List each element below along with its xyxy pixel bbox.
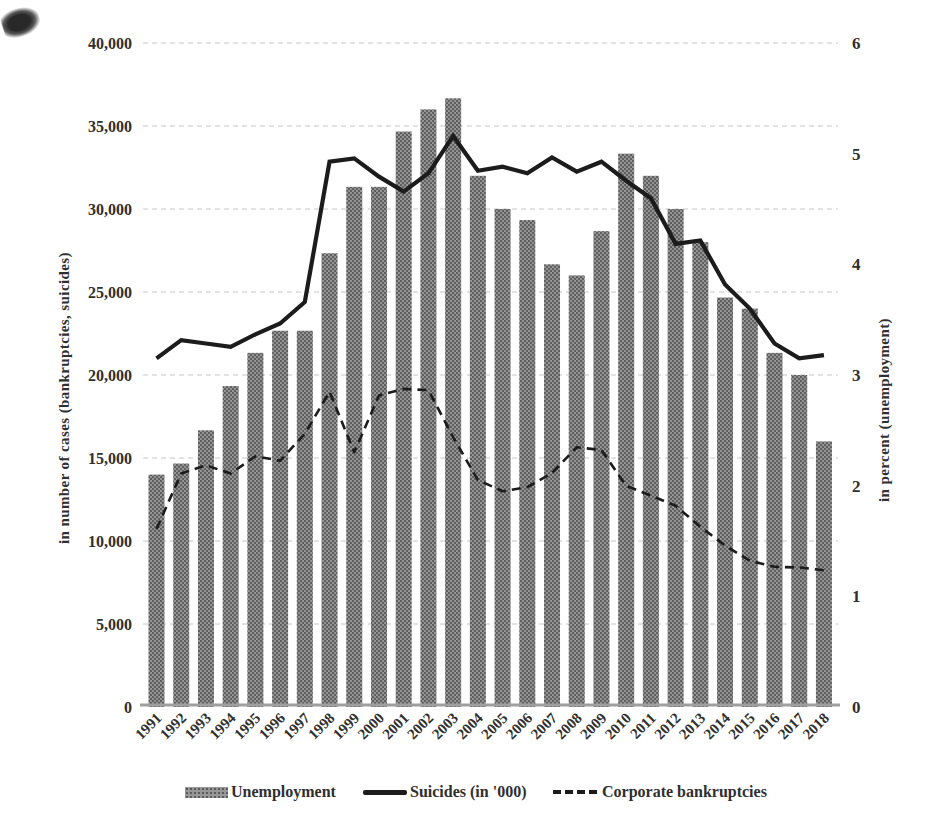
right-axis-tick-label: 5 xyxy=(852,145,861,164)
x-axis-year-label-2002: 2002 xyxy=(404,710,437,743)
chart-canvas: 05,00010,00015,00020,00025,00030,00035,0… xyxy=(0,0,946,839)
left-axis-tick-label: 25,000 xyxy=(88,284,132,301)
left-axis-tick-label: 40,000 xyxy=(88,35,132,52)
x-axis-year-label-2003: 2003 xyxy=(429,710,462,743)
combo-chart: 05,00010,00015,00020,00025,00030,00035,0… xyxy=(0,0,946,839)
bar-unemployment-2009 xyxy=(593,231,609,707)
left-axis-title: in number of cases (bankruptcies, suicid… xyxy=(56,252,73,544)
x-axis-year-label-1992: 1992 xyxy=(157,710,190,743)
legend-label-unemployment: Unemployment xyxy=(231,783,336,801)
legend-label-suicides: Suicides (in '000) xyxy=(410,783,526,801)
x-axis-year-label-2007: 2007 xyxy=(528,709,561,742)
x-axis-year-label-2011: 2011 xyxy=(627,710,659,742)
bar-unemployment-2017 xyxy=(791,375,807,707)
left-axis-tick-label: 5,000 xyxy=(96,616,132,633)
legend-item-unemployment: Unemployment xyxy=(185,779,336,805)
x-axis-year-label-1991: 1991 xyxy=(132,710,165,743)
x-axis-year-label-2016: 2016 xyxy=(750,709,783,742)
left-axis-tick-label: 20,000 xyxy=(88,367,132,384)
x-axis-year-label-1994: 1994 xyxy=(206,709,239,742)
left-axis-tick-label: 15,000 xyxy=(88,450,132,467)
x-axis-year-label-2018: 2018 xyxy=(800,710,833,743)
bar-unemployment-2011 xyxy=(643,176,659,707)
bar-unemployment-2001 xyxy=(396,132,412,707)
bar-unemployment-1993 xyxy=(198,430,214,707)
bar-unemployment-2013 xyxy=(692,242,708,707)
legend-label-bankruptcies: Corporate bankruptcies xyxy=(602,783,767,801)
bar-unemployment-1998 xyxy=(322,253,338,707)
bar-unemployment-2005 xyxy=(495,209,511,707)
left-axis-tick-label: 35,000 xyxy=(88,118,132,135)
x-axis-year-label-1998: 1998 xyxy=(305,710,338,743)
x-axis-year-label-2014: 2014 xyxy=(701,709,734,742)
bar-unemployment-2018 xyxy=(816,441,832,707)
bar-unemployment-1997 xyxy=(297,331,313,707)
bar-unemployment-1996 xyxy=(272,331,288,707)
x-axis-year-label-2013: 2013 xyxy=(676,710,709,743)
x-axis-year-label-2005: 2005 xyxy=(478,710,511,743)
unemployment-bar-swatch-icon xyxy=(185,787,228,798)
right-axis-tick-label: 6 xyxy=(852,34,861,53)
right-axis-tick-label: 0 xyxy=(852,698,861,717)
bar-unemployment-1992 xyxy=(173,464,189,707)
right-axis-tick-label: 4 xyxy=(852,255,861,274)
x-axis-year-label-2009: 2009 xyxy=(577,710,610,743)
bar-unemployment-2014 xyxy=(717,298,733,707)
right-axis-tick-label: 2 xyxy=(852,477,861,496)
left-axis-tick-label: 10,000 xyxy=(88,533,132,550)
x-axis-year-label-2017: 2017 xyxy=(775,709,808,742)
x-axis-year-label-1997: 1997 xyxy=(280,709,313,742)
x-axis-year-label-2000: 2000 xyxy=(355,710,388,743)
x-axis-year-label-1995: 1995 xyxy=(231,710,264,743)
legend: Unemployment Suicides (in '000) Corporat… xyxy=(0,779,946,805)
bar-unemployment-2003 xyxy=(445,98,461,707)
bar-unemployment-2010 xyxy=(618,154,634,707)
suicides-line-swatch-icon xyxy=(363,790,407,795)
x-axis-year-label-2008: 2008 xyxy=(552,710,585,743)
right-axis-tick-label: 1 xyxy=(852,587,861,606)
bar-unemployment-2002 xyxy=(420,109,436,707)
bar-unemployment-2012 xyxy=(668,209,684,707)
left-axis-tick-label: 0 xyxy=(124,699,132,716)
bar-unemployment-2008 xyxy=(569,275,585,707)
bar-unemployment-2015 xyxy=(742,309,758,707)
unemployment-bars xyxy=(149,98,832,707)
bar-unemployment-2006 xyxy=(519,220,535,707)
x-axis-year-label-2010: 2010 xyxy=(602,710,635,743)
x-axis-year-label-2015: 2015 xyxy=(725,710,758,743)
bar-unemployment-1991 xyxy=(149,475,165,707)
gridlines xyxy=(143,43,838,624)
bar-unemployment-1994 xyxy=(223,386,239,707)
bar-unemployment-2000 xyxy=(371,187,387,707)
bar-unemployment-2007 xyxy=(544,264,560,707)
legend-item-bankruptcies: Corporate bankruptcies xyxy=(553,779,767,805)
right-axis-tick-label: 3 xyxy=(852,366,861,385)
bar-unemployment-1995 xyxy=(247,353,263,707)
bar-unemployment-2016 xyxy=(767,353,783,707)
x-axis-year-label-2012: 2012 xyxy=(651,710,684,743)
left-axis-tick-label: 30,000 xyxy=(88,201,132,218)
x-axis-year-label-1993: 1993 xyxy=(182,710,215,743)
bar-unemployment-2004 xyxy=(470,176,486,707)
x-axis-year-label-2001: 2001 xyxy=(379,710,412,743)
right-axis-title: in percent (unemployment) xyxy=(876,318,893,502)
x-axis-year-label-2004: 2004 xyxy=(453,709,486,742)
x-axis-year-label-2006: 2006 xyxy=(503,709,536,742)
bankruptcies-dash-swatch-icon xyxy=(553,790,599,794)
x-axis-year-label-1999: 1999 xyxy=(330,710,363,743)
legend-item-suicides: Suicides (in '000) xyxy=(363,779,526,805)
x-axis-year-label-1996: 1996 xyxy=(256,709,289,742)
bar-unemployment-1999 xyxy=(346,187,362,707)
